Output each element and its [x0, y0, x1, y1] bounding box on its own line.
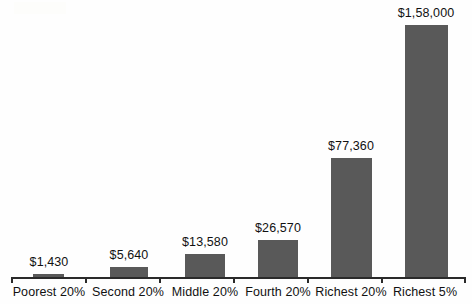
bar [331, 158, 372, 277]
x-axis-tick [85, 277, 87, 283]
x-axis-tick [233, 277, 235, 283]
x-axis-tick [159, 277, 161, 283]
bar [405, 25, 448, 277]
x-axis-tick [11, 277, 13, 283]
plot-area: $1,430$5,640$13,580$26,570$77,360$1,58,0… [0, 0, 472, 278]
x-axis-category-label: Richest 5% [378, 285, 472, 299]
x-axis-tick [381, 277, 383, 283]
bar [110, 267, 148, 277]
bar [258, 240, 298, 277]
bar [185, 254, 225, 277]
bar-value-label: $1,430 [9, 255, 89, 269]
bar-value-label: $5,640 [89, 248, 169, 262]
bar-value-label: $77,360 [310, 139, 392, 153]
bar-chart: $1,430$5,640$13,580$26,570$77,360$1,58,0… [0, 0, 472, 304]
x-axis-line [11, 277, 466, 279]
x-axis-category-labels: Poorest 20%Second 20%Middle 20%Fourth 20… [0, 285, 472, 304]
bar-value-label: $1,58,000 [380, 6, 472, 20]
x-axis-tick [464, 277, 466, 283]
bar-value-label: $26,570 [237, 221, 319, 235]
x-axis-tick [307, 277, 309, 283]
bar-value-label: $13,580 [164, 235, 246, 249]
